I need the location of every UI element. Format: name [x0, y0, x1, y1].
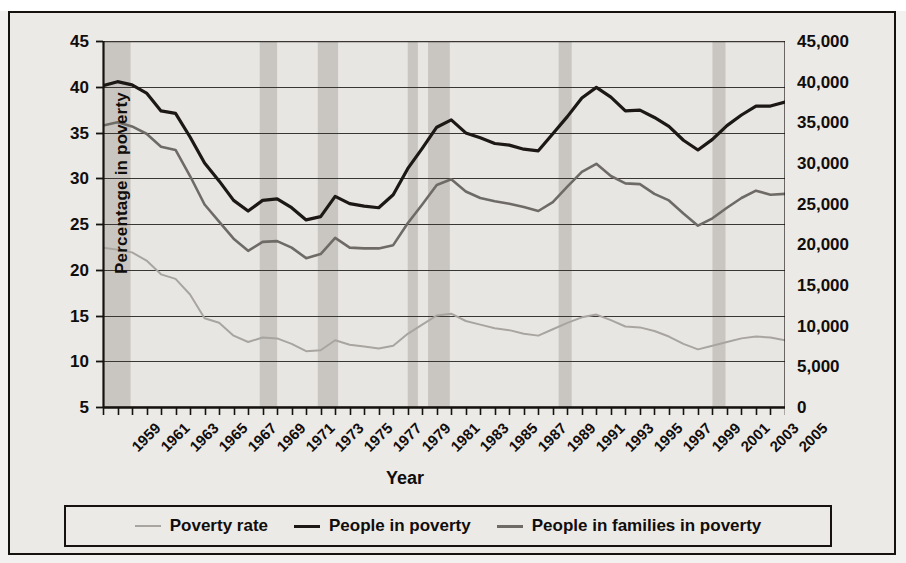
chart-page: Percentage in poverty Millions in povert… — [0, 0, 906, 563]
left-axis-title: Percentage in poverty — [112, 92, 132, 274]
x-tick-label-1991: 1991 — [593, 420, 627, 454]
x-tick-label-2001: 2001 — [738, 420, 772, 454]
left-tick-label-30: 30 — [45, 170, 89, 187]
x-tick-label-1963: 1963 — [187, 420, 221, 454]
x-tick-label-2005: 2005 — [796, 420, 830, 454]
legend-item-people-in-poverty[interactable]: People in poverty — [294, 516, 471, 536]
left-tick-label-45: 45 — [45, 33, 89, 50]
x-tick-label-1967: 1967 — [245, 420, 279, 454]
x-tick-label-1975: 1975 — [361, 420, 395, 454]
figure-frame: Percentage in poverty Millions in povert… — [8, 11, 896, 555]
x-tick-label-1969: 1969 — [274, 420, 308, 454]
right-tick-label-45000: 45,000 — [797, 33, 849, 50]
chart-svg — [103, 41, 785, 407]
legend-line-swatch-icon — [135, 525, 161, 527]
legend-item-people-in-families-in-poverty[interactable]: People in families in poverty — [497, 516, 762, 536]
x-tick-label-1971: 1971 — [303, 420, 337, 454]
right-tick-label-5000: 5,000 — [797, 358, 840, 375]
legend: Poverty ratePeople in povertyPeople in f… — [64, 505, 832, 547]
x-tick-label-1979: 1979 — [419, 420, 453, 454]
x-tick-label-1989: 1989 — [564, 420, 598, 454]
x-tick-label-1977: 1977 — [390, 420, 424, 454]
right-tick-label-0: 0 — [797, 399, 806, 416]
x-tick-label-2003: 2003 — [767, 420, 801, 454]
legend-line-swatch-icon — [294, 525, 320, 528]
cropped-top-margin — [0, 0, 906, 11]
right-tick-label-10000: 10,000 — [797, 318, 849, 335]
x-tick-label-1983: 1983 — [477, 420, 511, 454]
left-tick-label-40: 40 — [45, 79, 89, 96]
x-tick-label-1993: 1993 — [622, 420, 656, 454]
right-tick-label-40000: 40,000 — [797, 74, 849, 91]
legend-label: Poverty rate — [170, 516, 268, 536]
plot-area — [103, 41, 785, 407]
legend-item-poverty-rate[interactable]: Poverty rate — [135, 516, 268, 536]
left-tick-label-15: 15 — [45, 308, 89, 325]
right-tick-label-25000: 25,000 — [797, 196, 849, 213]
left-tick-label-20: 20 — [45, 262, 89, 279]
x-tick-label-1995: 1995 — [651, 420, 685, 454]
x-tick-label-1965: 1965 — [216, 420, 250, 454]
x-axis-title: Year — [10, 468, 800, 489]
legend-line-swatch-icon — [497, 525, 523, 528]
left-tick-label-25: 25 — [45, 216, 89, 233]
left-tick-label-10: 10 — [45, 353, 89, 370]
x-tick-label-1961: 1961 — [158, 420, 192, 454]
left-tick-label-35: 35 — [45, 125, 89, 142]
legend-label: People in poverty — [329, 516, 471, 536]
plot-wrapper: Percentage in poverty Millions in povert… — [95, 33, 785, 427]
x-tick-label-1981: 1981 — [448, 420, 482, 454]
x-tick-label-1959: 1959 — [129, 420, 163, 454]
right-tick-label-20000: 20,000 — [797, 236, 849, 253]
left-tick-label-5: 5 — [45, 399, 89, 416]
x-tick-label-1985: 1985 — [506, 420, 540, 454]
x-tick-label-1973: 1973 — [332, 420, 366, 454]
right-tick-label-30000: 30,000 — [797, 155, 849, 172]
right-tick-label-15000: 15,000 — [797, 277, 849, 294]
x-tick-label-1997: 1997 — [680, 420, 714, 454]
right-tick-label-35000: 35,000 — [797, 114, 849, 131]
legend-label: People in families in poverty — [532, 516, 762, 536]
x-tick-label-1987: 1987 — [535, 420, 569, 454]
x-tick-label-1999: 1999 — [709, 420, 743, 454]
